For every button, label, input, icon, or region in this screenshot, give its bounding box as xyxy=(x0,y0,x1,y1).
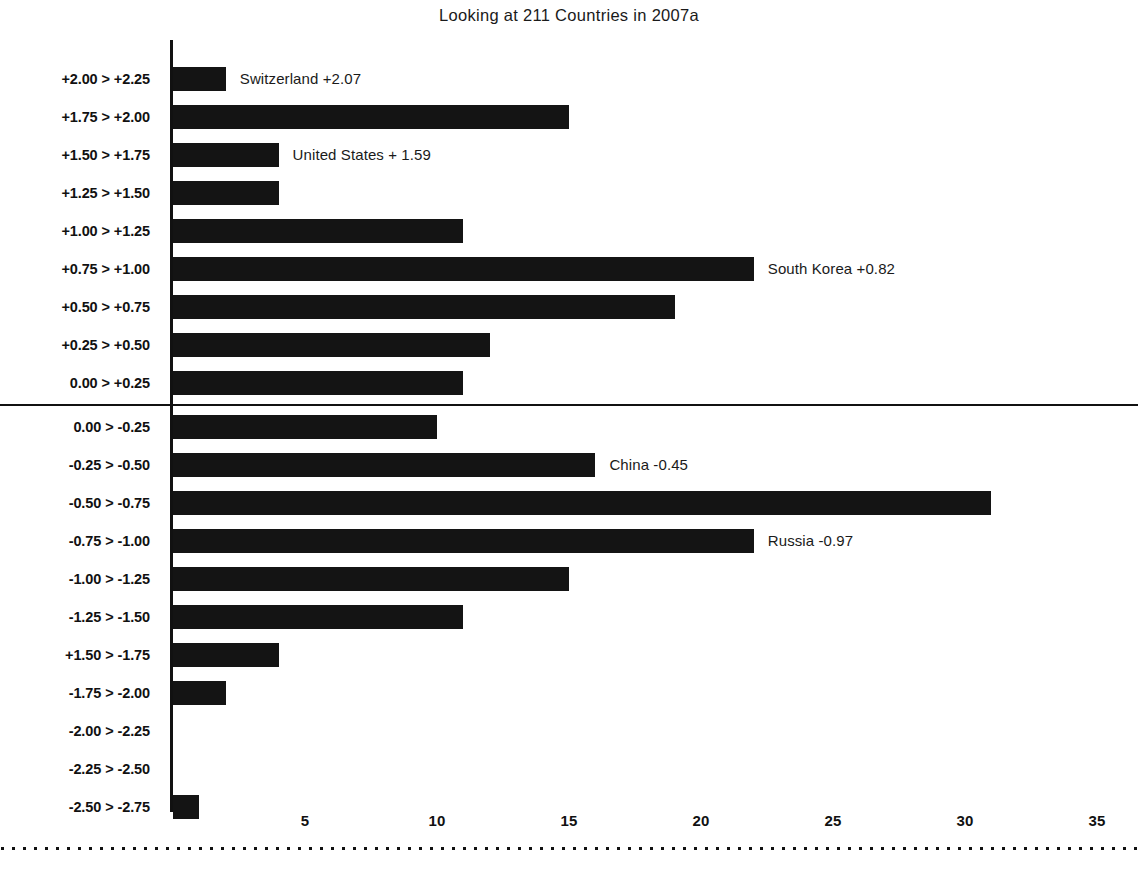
bar-row: 0.00 > +0.25 xyxy=(0,364,1138,402)
bar-row: -1.00 > -1.25 xyxy=(0,560,1138,598)
category-label: -0.50 > -0.75 xyxy=(0,484,160,522)
bar-row: -2.25 > -2.50 xyxy=(0,750,1138,788)
bar xyxy=(173,219,463,243)
category-label: +0.50 > +0.75 xyxy=(0,288,160,326)
bar-row: -0.75 > -1.00Russia -0.97 xyxy=(0,522,1138,560)
bar xyxy=(173,643,279,667)
bar xyxy=(173,605,463,629)
bar xyxy=(173,295,675,319)
plot-area: +2.00 > +2.25Switzerland +2.07+1.75 > +2… xyxy=(0,40,1138,810)
dotted-bottom-rule xyxy=(0,846,1138,851)
chart-page: Looking at 211 Countries in 2007a Z-Scor… xyxy=(0,0,1138,871)
x-axis-tick-label: 30 xyxy=(956,812,973,829)
category-label: +1.25 > +1.50 xyxy=(0,174,160,212)
chart-title: Looking at 211 Countries in 2007a xyxy=(0,6,1138,25)
x-axis-tick-label: 35 xyxy=(1088,812,1105,829)
x-axis-tick-label: 20 xyxy=(692,812,709,829)
bar xyxy=(173,371,463,395)
bar xyxy=(173,143,279,167)
bar-annotation: United States + 1.59 xyxy=(293,136,431,174)
category-label: +0.25 > +0.50 xyxy=(0,326,160,364)
bar-row: +1.25 > +1.50 xyxy=(0,174,1138,212)
category-label: +2.00 > +2.25 xyxy=(0,60,160,98)
bar xyxy=(173,529,754,553)
zero-divider-line xyxy=(0,404,1138,406)
category-label: +1.50 > +1.75 xyxy=(0,136,160,174)
bar xyxy=(173,681,226,705)
x-axis: 5101520253035 xyxy=(0,812,1138,842)
x-axis-tick-label: 25 xyxy=(824,812,841,829)
category-label: 0.00 > -0.25 xyxy=(0,408,160,446)
bar-row: -1.75 > -2.00 xyxy=(0,674,1138,712)
bar-row: +0.50 > +0.75 xyxy=(0,288,1138,326)
bar xyxy=(173,567,569,591)
bar-row: -1.25 > -1.50 xyxy=(0,598,1138,636)
bar-row: +1.75 > +2.00 xyxy=(0,98,1138,136)
category-label: -0.75 > -1.00 xyxy=(0,522,160,560)
bar-row: -0.50 > -0.75 xyxy=(0,484,1138,522)
category-label: -2.00 > -2.25 xyxy=(0,712,160,750)
x-axis-tick-label: 15 xyxy=(560,812,577,829)
bar xyxy=(173,333,490,357)
bar-annotation: Switzerland +2.07 xyxy=(240,60,361,98)
bar xyxy=(173,491,991,515)
bar-annotation: Russia -0.97 xyxy=(768,522,853,560)
bar-annotation: South Korea +0.82 xyxy=(768,250,895,288)
x-axis-tick-label: 5 xyxy=(301,812,310,829)
bar xyxy=(173,415,437,439)
bar-row: +2.00 > +2.25Switzerland +2.07 xyxy=(0,60,1138,98)
bar-annotation: China -0.45 xyxy=(609,446,688,484)
category-label: -0.25 > -0.50 xyxy=(0,446,160,484)
bar-row: +1.00 > +1.25 xyxy=(0,212,1138,250)
bar-row: -2.00 > -2.25 xyxy=(0,712,1138,750)
category-label: +1.75 > +2.00 xyxy=(0,98,160,136)
bar-row: +1.50 > -1.75 xyxy=(0,636,1138,674)
category-label: +0.75 > +1.00 xyxy=(0,250,160,288)
bar xyxy=(173,181,279,205)
bar-row: 0.00 > -0.25 xyxy=(0,408,1138,446)
category-label: 0.00 > +0.25 xyxy=(0,364,160,402)
bar xyxy=(173,105,569,129)
bar-row: +1.50 > +1.75United States + 1.59 xyxy=(0,136,1138,174)
x-axis-tick-label: 10 xyxy=(428,812,445,829)
bar xyxy=(173,257,754,281)
bar-row: -0.25 > -0.50China -0.45 xyxy=(0,446,1138,484)
category-label: +1.00 > +1.25 xyxy=(0,212,160,250)
category-label: -1.00 > -1.25 xyxy=(0,560,160,598)
category-label: +1.50 > -1.75 xyxy=(0,636,160,674)
bar-row: +0.25 > +0.50 xyxy=(0,326,1138,364)
bar xyxy=(173,67,226,91)
bar xyxy=(173,453,595,477)
category-label: -1.25 > -1.50 xyxy=(0,598,160,636)
bar-row: +0.75 > +1.00South Korea +0.82 xyxy=(0,250,1138,288)
category-label: -1.75 > -2.00 xyxy=(0,674,160,712)
category-label: -2.25 > -2.50 xyxy=(0,750,160,788)
